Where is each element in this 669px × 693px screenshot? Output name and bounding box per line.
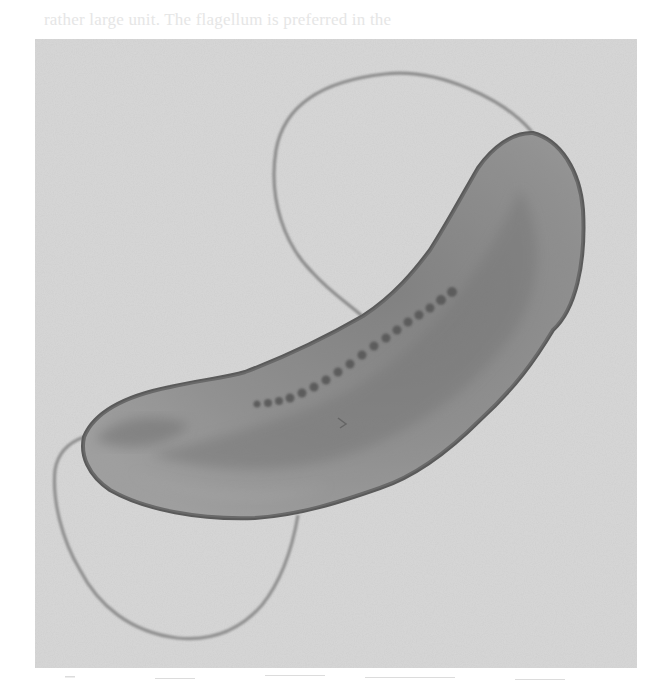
- bleed-through-text: rather large unit. The flagellum is pref…: [44, 10, 654, 30]
- scan-specks: [35, 670, 637, 690]
- bleed-through-text-lower: [44, 30, 654, 39]
- bacterium-illustration: [35, 39, 637, 668]
- micrograph-photo: [35, 39, 637, 668]
